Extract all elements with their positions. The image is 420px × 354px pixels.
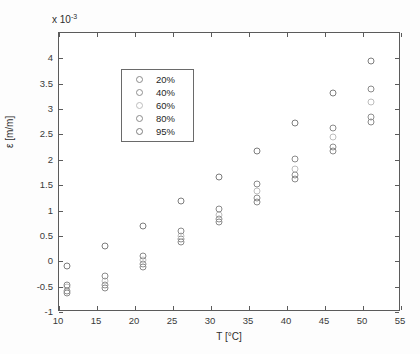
- x-axis-tick: [325, 306, 326, 310]
- figure-canvas: x 10-3 ε [m/m] T [°C] 20%40%60%80%95% 10…: [0, 0, 420, 354]
- data-point: [101, 273, 108, 280]
- x-axis-tick: [401, 306, 402, 310]
- y-axis-tick: [59, 236, 63, 237]
- x-axis-tick-label: 55: [395, 315, 406, 326]
- y-axis-title: ε [m/m]: [4, 116, 15, 148]
- data-point: [253, 188, 260, 195]
- data-point: [139, 253, 146, 260]
- x-axis-tick: [249, 306, 250, 310]
- x-axis-tick-label: 40: [281, 315, 292, 326]
- y-axis-tick: [395, 58, 399, 59]
- legend-marker-cell: [122, 128, 156, 135]
- y-axis-tick: [395, 134, 399, 135]
- data-point: [177, 198, 184, 205]
- y-axis-tick-label: 4: [18, 52, 53, 63]
- data-point: [367, 85, 374, 92]
- data-point: [215, 205, 222, 212]
- y-axis-tick: [59, 261, 63, 262]
- x-axis-tick: [211, 306, 212, 310]
- y-axis-exponent-label: x 10-3: [52, 13, 77, 25]
- data-point: [63, 281, 70, 288]
- legend-item-60[interactable]: 60%: [122, 99, 193, 112]
- y-axis-tick: [59, 312, 63, 313]
- x-axis-tick: [173, 33, 174, 37]
- x-axis-tick: [211, 33, 212, 37]
- y-axis-tick-label: -1: [18, 306, 53, 317]
- x-axis-tick-label: 50: [357, 315, 368, 326]
- data-point: [101, 243, 108, 250]
- y-axis-tick: [59, 58, 63, 59]
- y-axis-tick-label: 1: [18, 204, 53, 215]
- circle-marker-icon: [136, 115, 143, 122]
- data-point: [329, 134, 336, 141]
- plot-area: 20%40%60%80%95%: [58, 32, 400, 311]
- legend-label: 20%: [156, 74, 175, 85]
- y-axis-tick: [395, 236, 399, 237]
- x-axis-tick-label: 45: [319, 315, 330, 326]
- y-axis-exponent-base: x 10: [52, 14, 71, 25]
- y-axis-tick: [395, 261, 399, 262]
- x-axis-tick: [97, 33, 98, 37]
- x-axis-tick: [287, 306, 288, 310]
- data-point: [291, 165, 298, 172]
- data-point: [215, 174, 222, 181]
- x-axis-tick-label: 20: [129, 315, 140, 326]
- data-point: [215, 211, 222, 218]
- data-point: [291, 120, 298, 127]
- y-axis-exponent-power: -3: [71, 13, 77, 20]
- data-point: [329, 89, 336, 96]
- data-point: [253, 147, 260, 154]
- x-axis-tick: [325, 33, 326, 37]
- y-axis-tick-label: 2.5: [18, 128, 53, 139]
- y-axis-tick-label: -0.5: [18, 280, 53, 291]
- y-axis-tick: [395, 185, 399, 186]
- legend-item-20[interactable]: 20%: [122, 73, 193, 86]
- x-axis-tick-label: 15: [91, 315, 102, 326]
- y-axis-tick: [395, 160, 399, 161]
- y-axis-tick-label: 0.5: [18, 229, 53, 240]
- circle-marker-icon: [136, 102, 143, 109]
- legend-item-40[interactable]: 40%: [122, 86, 193, 99]
- legend-item-80[interactable]: 80%: [122, 112, 193, 125]
- x-axis-tick: [135, 33, 136, 37]
- data-point: [253, 195, 260, 202]
- y-axis-tick-label: 3: [18, 103, 53, 114]
- y-axis-tick: [59, 160, 63, 161]
- x-axis-tick: [59, 33, 60, 37]
- data-point: [177, 227, 184, 234]
- y-axis-tick: [59, 84, 63, 85]
- x-axis-tick: [173, 306, 174, 310]
- y-axis-tick: [59, 211, 63, 212]
- x-axis-tick: [249, 33, 250, 37]
- data-point: [329, 143, 336, 150]
- legend-label: 80%: [156, 113, 175, 124]
- legend-item-95[interactable]: 95%: [122, 125, 193, 138]
- y-axis-tick: [395, 211, 399, 212]
- legend-marker-cell: [122, 89, 156, 96]
- y-axis-tick: [395, 312, 399, 313]
- data-point: [291, 155, 298, 162]
- x-axis-tick: [287, 33, 288, 37]
- x-axis-tick: [59, 306, 60, 310]
- y-axis-tick: [59, 185, 63, 186]
- data-point: [367, 114, 374, 121]
- y-axis-tick: [395, 287, 399, 288]
- legend-label: 40%: [156, 87, 175, 98]
- legend: 20%40%60%80%95%: [121, 69, 194, 142]
- x-axis-tick-label: 35: [243, 315, 254, 326]
- legend-marker-cell: [122, 102, 156, 109]
- y-axis-tick-label: 1.5: [18, 179, 53, 190]
- y-axis-tick-label: 2: [18, 153, 53, 164]
- x-axis-tick: [363, 306, 364, 310]
- data-point: [291, 172, 298, 179]
- y-axis-tick: [59, 287, 63, 288]
- x-axis-tick-label: 30: [205, 315, 216, 326]
- x-axis-tick: [401, 33, 402, 37]
- legend-marker-cell: [122, 115, 156, 122]
- x-axis-tick: [97, 306, 98, 310]
- data-point: [63, 263, 70, 270]
- legend-label: 95%: [156, 126, 175, 137]
- data-point: [329, 125, 336, 132]
- x-axis-tick-label: 25: [167, 315, 178, 326]
- circle-marker-icon: [136, 89, 143, 96]
